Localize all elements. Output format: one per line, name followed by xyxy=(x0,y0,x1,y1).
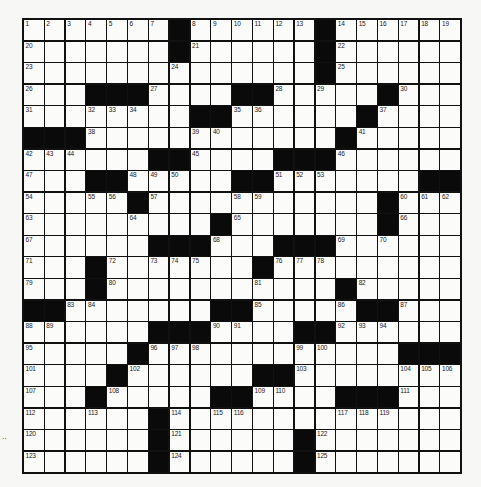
grid-cell[interactable]: 113 xyxy=(86,409,106,429)
grid-cell[interactable] xyxy=(170,214,190,234)
grid-cell[interactable] xyxy=(191,430,211,450)
grid-cell[interactable] xyxy=(86,150,106,170)
grid-cell[interactable] xyxy=(399,322,419,342)
grid-cell[interactable]: 79 xyxy=(24,279,44,299)
grid-cell[interactable] xyxy=(378,279,398,299)
grid-cell[interactable] xyxy=(440,63,460,83)
grid-cell[interactable] xyxy=(107,452,127,472)
grid-cell[interactable]: 123 xyxy=(24,452,44,472)
grid-cell[interactable] xyxy=(66,171,86,191)
grid-cell[interactable] xyxy=(420,301,440,321)
grid-cell[interactable] xyxy=(295,128,315,148)
grid-cell[interactable]: 16 xyxy=(378,20,398,40)
grid-cell[interactable]: 9 xyxy=(211,20,231,40)
grid-cell[interactable] xyxy=(357,430,377,450)
grid-cell[interactable]: 36 xyxy=(253,106,273,126)
grid-cell[interactable] xyxy=(232,236,252,256)
grid-cell[interactable] xyxy=(316,279,336,299)
grid-cell[interactable] xyxy=(336,171,356,191)
grid-cell[interactable] xyxy=(211,193,231,213)
grid-cell[interactable] xyxy=(191,85,211,105)
grid-cell[interactable]: 100 xyxy=(316,344,336,364)
grid-cell[interactable]: 46 xyxy=(336,150,356,170)
grid-cell[interactable]: 26 xyxy=(24,85,44,105)
grid-cell[interactable]: 65 xyxy=(232,214,252,234)
grid-cell[interactable] xyxy=(357,193,377,213)
grid-cell[interactable] xyxy=(420,322,440,342)
grid-cell[interactable] xyxy=(211,42,231,62)
grid-cell[interactable]: 27 xyxy=(149,85,169,105)
grid-cell[interactable] xyxy=(274,301,294,321)
grid-cell[interactable]: 99 xyxy=(295,344,315,364)
grid-cell[interactable]: 2 xyxy=(45,20,65,40)
grid-cell[interactable]: 72 xyxy=(107,257,127,277)
grid-cell[interactable] xyxy=(66,193,86,213)
grid-cell[interactable]: 32 xyxy=(86,106,106,126)
grid-cell[interactable] xyxy=(357,344,377,364)
grid-cell[interactable]: 118 xyxy=(357,409,377,429)
grid-cell[interactable] xyxy=(211,150,231,170)
grid-cell[interactable] xyxy=(66,236,86,256)
grid-cell[interactable]: 62 xyxy=(440,193,460,213)
grid-cell[interactable] xyxy=(336,365,356,385)
grid-cell[interactable] xyxy=(420,150,440,170)
grid-cell[interactable] xyxy=(378,452,398,472)
grid-cell[interactable] xyxy=(107,344,127,364)
grid-cell[interactable] xyxy=(274,409,294,429)
grid-cell[interactable]: 69 xyxy=(336,236,356,256)
grid-cell[interactable] xyxy=(253,322,273,342)
grid-cell[interactable] xyxy=(170,128,190,148)
grid-cell[interactable]: 83 xyxy=(66,301,86,321)
grid-cell[interactable]: 39 xyxy=(191,128,211,148)
grid-cell[interactable]: 40 xyxy=(211,128,231,148)
grid-cell[interactable] xyxy=(211,257,231,277)
grid-cell[interactable] xyxy=(86,452,106,472)
grid-cell[interactable] xyxy=(66,85,86,105)
grid-cell[interactable] xyxy=(107,150,127,170)
grid-cell[interactable]: 114 xyxy=(170,409,190,429)
grid-cell[interactable] xyxy=(336,430,356,450)
grid-cell[interactable] xyxy=(170,193,190,213)
grid-cell[interactable]: 53 xyxy=(316,171,336,191)
grid-cell[interactable] xyxy=(440,430,460,450)
grid-cell[interactable] xyxy=(420,42,440,62)
grid-cell[interactable]: 52 xyxy=(295,171,315,191)
grid-cell[interactable] xyxy=(191,193,211,213)
grid-cell[interactable] xyxy=(191,214,211,234)
grid-cell[interactable] xyxy=(295,387,315,407)
grid-cell[interactable] xyxy=(66,214,86,234)
grid-cell[interactable]: 95 xyxy=(24,344,44,364)
grid-cell[interactable]: 75 xyxy=(191,257,211,277)
grid-cell[interactable]: 101 xyxy=(24,365,44,385)
grid-cell[interactable] xyxy=(420,387,440,407)
grid-cell[interactable] xyxy=(253,63,273,83)
grid-cell[interactable] xyxy=(295,85,315,105)
grid-cell[interactable] xyxy=(232,430,252,450)
grid-cell[interactable] xyxy=(45,193,65,213)
grid-cell[interactable] xyxy=(45,365,65,385)
grid-cell[interactable] xyxy=(357,42,377,62)
grid-cell[interactable] xyxy=(440,322,460,342)
grid-cell[interactable]: 64 xyxy=(128,214,148,234)
grid-cell[interactable] xyxy=(170,106,190,126)
grid-cell[interactable] xyxy=(440,452,460,472)
grid-cell[interactable] xyxy=(253,236,273,256)
grid-cell[interactable] xyxy=(399,257,419,277)
grid-cell[interactable] xyxy=(86,344,106,364)
grid-cell[interactable]: 29 xyxy=(316,85,336,105)
grid-cell[interactable]: 92 xyxy=(336,322,356,342)
grid-cell[interactable] xyxy=(45,344,65,364)
grid-cell[interactable] xyxy=(211,365,231,385)
grid-cell[interactable] xyxy=(316,128,336,148)
grid-cell[interactable]: 38 xyxy=(86,128,106,148)
grid-cell[interactable] xyxy=(336,85,356,105)
grid-cell[interactable] xyxy=(66,106,86,126)
grid-cell[interactable] xyxy=(86,365,106,385)
grid-cell[interactable] xyxy=(149,365,169,385)
grid-cell[interactable]: 80 xyxy=(107,279,127,299)
grid-cell[interactable]: 107 xyxy=(24,387,44,407)
grid-cell[interactable]: 51 xyxy=(274,171,294,191)
grid-cell[interactable]: 120 xyxy=(24,430,44,450)
grid-cell[interactable]: 93 xyxy=(357,322,377,342)
grid-cell[interactable] xyxy=(357,63,377,83)
